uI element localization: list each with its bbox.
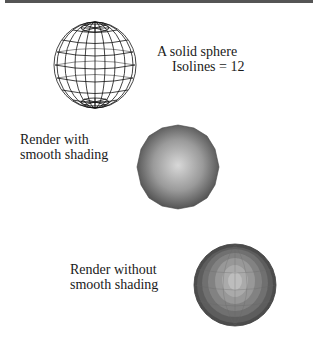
smooth-caption-line-2: smooth shading	[20, 147, 108, 162]
wireframe-sphere-figure	[51, 20, 139, 110]
faceted-caption-line-1: Render without	[70, 262, 158, 277]
smooth-shaded-sphere-figure	[134, 123, 222, 211]
smooth-caption: Render with smooth shading	[20, 132, 108, 162]
wireframe-caption-line-1: A solid sphere	[157, 44, 244, 59]
faceted-caption: Render without smooth shading	[70, 262, 158, 292]
faceted-sphere-figure	[191, 241, 279, 329]
wireframe-caption-line-2: Isolines = 12	[157, 59, 244, 74]
faceted-caption-line-2: smooth shading	[70, 277, 158, 292]
wireframe-caption: A solid sphere Isolines = 12	[157, 44, 244, 74]
top-rule	[5, 0, 313, 3]
smooth-caption-line-1: Render with	[20, 132, 108, 147]
